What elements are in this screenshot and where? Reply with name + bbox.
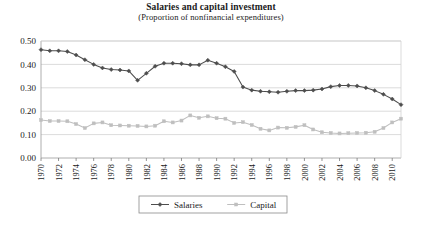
data-point-marker: [110, 124, 113, 127]
data-point-marker: [119, 124, 122, 127]
legend-marker: [235, 203, 238, 206]
x-axis-tick-label: 1982: [143, 164, 152, 181]
data-point-marker: [197, 63, 201, 67]
data-point-marker: [312, 128, 315, 131]
x-axis-tick-label: 1992: [230, 164, 239, 181]
data-point-marker: [250, 88, 254, 92]
y-axis-tick-label: 0.30: [20, 83, 36, 93]
data-point-marker: [364, 86, 368, 90]
data-point-marker: [373, 130, 376, 133]
data-point-marker: [232, 69, 236, 73]
data-point-marker: [250, 124, 253, 127]
data-point-marker: [285, 126, 288, 129]
data-point-marker: [277, 126, 280, 129]
data-point-marker: [206, 58, 210, 62]
data-point-marker: [338, 132, 341, 135]
data-point-marker: [127, 124, 130, 127]
data-point-marker: [101, 121, 104, 124]
data-point-marker: [241, 121, 244, 124]
x-axis-tick-label: 2006: [353, 164, 362, 181]
legend-label-salaries: Salaries: [174, 200, 203, 210]
data-point-marker: [48, 120, 51, 123]
data-point-marker: [303, 124, 306, 127]
x-axis-tick-label: 1996: [265, 164, 274, 181]
data-point-marker: [356, 131, 359, 134]
x-axis-tick-label: 1976: [90, 164, 99, 181]
data-point-marker: [294, 89, 298, 93]
data-point-marker: [206, 115, 209, 118]
data-point-marker: [92, 62, 96, 66]
x-axis-tick-label: 1998: [283, 164, 292, 181]
data-point-marker: [162, 120, 165, 123]
data-point-marker: [109, 68, 113, 72]
y-axis-tick-label: 0.50: [20, 36, 36, 46]
data-point-marker: [320, 131, 323, 134]
data-point-marker: [259, 89, 263, 93]
x-axis-tick-label: 1978: [107, 164, 116, 181]
x-axis-tick-label: 1990: [213, 164, 222, 181]
data-point-marker: [259, 127, 262, 130]
data-point-marker: [233, 121, 236, 124]
data-point-marker: [75, 123, 78, 126]
y-axis-tick-label: 0.10: [20, 130, 36, 140]
x-axis-tick-label: 1986: [178, 164, 187, 181]
data-point-marker: [145, 125, 148, 128]
data-point-marker: [391, 121, 394, 124]
data-point-marker: [302, 89, 306, 93]
data-point-marker: [83, 58, 87, 62]
data-point-marker: [364, 131, 367, 134]
x-axis-tick-label: 1980: [125, 164, 134, 181]
data-point-marker: [189, 114, 192, 117]
x-axis-tick-label: 1984: [160, 163, 169, 181]
x-axis-tick-label: 1972: [55, 164, 64, 181]
y-axis-tick-label: 0.40: [20, 60, 36, 70]
data-point-marker: [223, 65, 227, 69]
y-axis-tick-label: 0.20: [20, 106, 36, 116]
data-point-marker: [285, 89, 289, 93]
data-point-marker: [100, 66, 104, 70]
data-point-marker: [65, 50, 69, 54]
line-chart-plot: 0.500.400.300.200.100.001970197219741976…: [0, 0, 422, 228]
data-point-marker: [355, 84, 359, 88]
x-axis-tick-label: 1988: [195, 164, 204, 181]
data-point-marker: [224, 117, 227, 120]
data-point-marker: [92, 122, 95, 125]
data-point-marker: [118, 68, 122, 72]
data-point-marker: [382, 127, 385, 130]
data-point-marker: [381, 92, 385, 96]
data-point-marker: [171, 121, 174, 124]
data-point-marker: [346, 83, 350, 87]
data-point-marker: [83, 127, 86, 130]
data-point-marker: [154, 124, 157, 127]
data-point-marker: [400, 117, 403, 120]
data-point-marker: [215, 117, 218, 120]
data-point-marker: [329, 131, 332, 134]
data-point-marker: [180, 119, 183, 122]
data-point-marker: [74, 53, 78, 57]
data-point-marker: [66, 120, 69, 123]
data-point-marker: [57, 120, 60, 123]
data-point-marker: [40, 119, 43, 122]
x-axis-tick-label: 2000: [301, 164, 310, 181]
series-line-salaries: [41, 50, 401, 105]
x-axis-tick-label: 2010: [388, 164, 397, 181]
data-point-marker: [268, 129, 271, 132]
data-point-marker: [311, 88, 315, 92]
data-point-marker: [136, 124, 139, 127]
data-point-marker: [198, 116, 201, 119]
data-point-marker: [276, 90, 280, 94]
x-axis-tick-label: 2008: [371, 164, 380, 181]
data-point-marker: [338, 83, 342, 87]
data-point-marker: [267, 90, 271, 94]
x-axis-tick-label: 2002: [318, 164, 327, 181]
x-axis-tick-label: 1994: [248, 163, 257, 181]
data-point-marker: [241, 85, 245, 89]
data-point-marker: [347, 132, 350, 135]
data-point-marker: [373, 89, 377, 93]
data-point-marker: [188, 63, 192, 67]
data-point-marker: [294, 125, 297, 128]
data-point-marker: [48, 49, 52, 53]
data-point-marker: [39, 48, 43, 52]
y-axis-tick-label: 0.00: [20, 153, 36, 163]
data-point-marker: [57, 49, 61, 53]
